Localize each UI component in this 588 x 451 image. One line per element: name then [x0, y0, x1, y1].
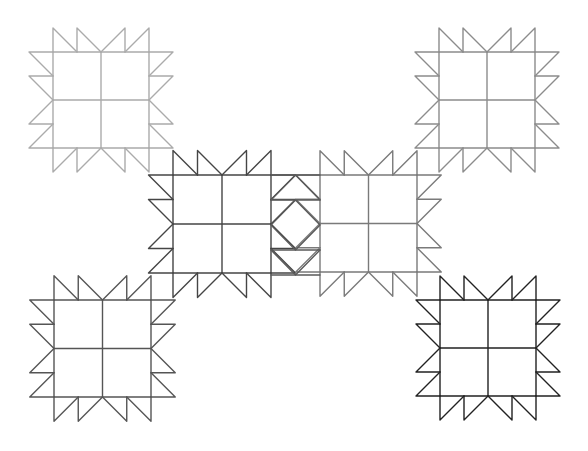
quilt-block-top-right	[415, 28, 559, 172]
sashing-diamond-strip	[271, 175, 320, 275]
quilt-block-top-left	[29, 28, 173, 172]
quilt-svg	[0, 0, 588, 451]
quilt-diagram	[0, 0, 588, 451]
quilt-block-bottom-left	[30, 276, 176, 422]
quilt-block-bottom-right	[416, 276, 560, 420]
